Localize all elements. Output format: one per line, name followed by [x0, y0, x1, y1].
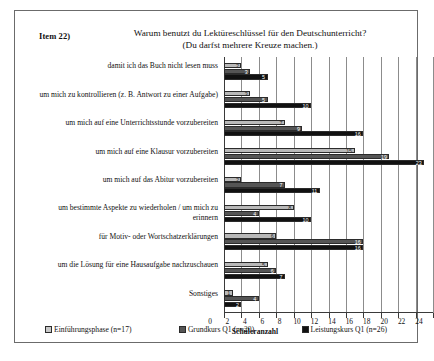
bar-value-label: 4: [253, 297, 256, 302]
legend-item: Leistungskurs Q1 (n=26): [302, 325, 387, 334]
bar-value-label: 16: [355, 246, 361, 251]
bar: 8: [224, 205, 294, 210]
bar-value-label: 8: [288, 206, 291, 211]
chart-title: Warum benutzt du Lektüreschlüssel für de…: [85, 28, 415, 51]
bar: 10: [224, 217, 311, 222]
bar-value-label: 11: [312, 189, 318, 194]
bar: 5: [224, 262, 268, 267]
grid-line: [398, 57, 399, 313]
bar: 4: [224, 296, 259, 301]
bar: 15: [224, 148, 355, 153]
bar: 7: [224, 274, 285, 279]
item-number-label: Item 22): [39, 31, 70, 41]
bar: 23: [224, 160, 424, 165]
bar-value-label: 16: [355, 132, 361, 137]
bar: 3: [224, 91, 250, 96]
legend-label: Grundkurs Q1 (n=20): [188, 325, 254, 334]
bar-value-label: 23: [416, 161, 422, 166]
chart-page: Item 22) Warum benutzt du Lektüreschlüss…: [0, 0, 434, 361]
category-label: um mich zu kontrollieren (z. B. Antwort …: [38, 90, 218, 99]
chart-legend: Einführungsphase (n=17)Grundkurs Q1 (n=2…: [31, 325, 401, 334]
category-label: um mich auf eine Unterrichtsstunde vorzu…: [38, 118, 218, 127]
legend-swatch-icon: [45, 326, 52, 333]
bar: 2: [224, 177, 241, 182]
bar-value-label: 10: [303, 218, 309, 223]
bar: 16: [224, 239, 363, 244]
chart-title-line-2: (Du darfst mehrere Kreuze machen.): [85, 40, 415, 52]
grid-line: [416, 57, 417, 313]
bar: 5: [224, 97, 268, 102]
grid-line: [363, 57, 364, 313]
chart-frame: Item 22) Warum benutzt du Lektüreschlüss…: [14, 10, 418, 343]
category-label: um die Lösung für eine Hausaufgabe nachz…: [38, 260, 218, 269]
bar: 4: [224, 211, 259, 216]
bar: 7: [224, 120, 285, 125]
grid-line: [346, 57, 347, 313]
category-label: für Motiv- oder Wortschatzerklärungen: [38, 232, 218, 241]
grid-line: [294, 57, 295, 313]
category-label: damit ich das Buch nicht lesen muss: [38, 61, 218, 70]
x-tick-label: 24: [410, 317, 428, 326]
bar: 1: [224, 290, 233, 295]
bar: 10: [224, 103, 311, 108]
category-label: Sonstiges: [38, 289, 218, 298]
category-label: um bestimmte Aspekte zu wiederholen / um…: [38, 203, 218, 222]
legend-item: Grundkurs Q1 (n=20): [179, 325, 254, 334]
bar: 2: [224, 302, 241, 307]
bar: 7: [224, 182, 285, 187]
bar: 3: [224, 69, 250, 74]
bar-value-label: 10: [303, 104, 309, 109]
bar: 11: [224, 188, 320, 193]
bar-value-label: 2: [236, 303, 239, 308]
category-label: um mich auf das Abitur vorzubereiten: [38, 175, 218, 184]
grid-line: [381, 57, 382, 313]
legend-label: Einführungsphase (n=17): [54, 325, 131, 334]
bar-value-label: 7: [279, 275, 282, 280]
bar-value-label: 5: [262, 75, 265, 80]
category-label: um mich auf eine Klausur vorzubereiten: [38, 147, 218, 156]
bar: 6: [224, 233, 276, 238]
plot-area: 235351079161519232711841061616567142: [224, 57, 433, 313]
legend-label: Leistungskurs Q1 (n=26): [311, 325, 387, 334]
bar: 16: [224, 245, 363, 250]
bar: 19: [224, 154, 389, 159]
bar: 2: [224, 63, 241, 68]
bar: 6: [224, 268, 276, 273]
bar: 5: [224, 74, 268, 79]
legend-swatch-icon: [302, 326, 309, 333]
plot-inner: 235351079161519232711841061616567142: [224, 57, 433, 313]
bar: 9: [224, 126, 302, 131]
legend-item: Einführungsphase (n=17): [45, 325, 131, 334]
chart-title-line-1: Warum benutzt du Lektüreschlüssel für de…: [85, 28, 415, 40]
x-axis-line: [224, 312, 433, 313]
grid-line: [311, 57, 312, 313]
bar: 16: [224, 131, 363, 136]
legend-swatch-icon: [179, 326, 186, 333]
grid-line: [329, 57, 330, 313]
